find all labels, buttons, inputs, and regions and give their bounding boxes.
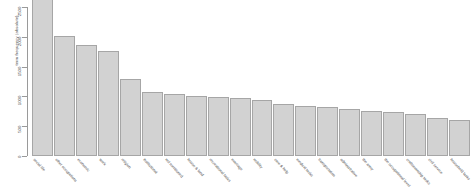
y-tick-label: 1000 [17,96,22,114]
x-tick-label: medical tasks [296,157,315,178]
x-tick-label: household tasks [449,157,471,181]
x-label-slot: economic [76,156,97,196]
y-tick-label: 1500 [17,66,22,84]
x-tick-label: civil service [427,157,444,175]
x-axis-labels: social lifeother occupationseconomicwork… [28,156,470,196]
x-label-slot: craftsmanship tasks [405,156,426,196]
x-label-slot: the occupational level [383,156,404,196]
bar [317,107,338,156]
x-tick-label: economic [76,157,91,173]
x-label-slot: institutional [142,156,163,196]
x-label-slot: medical tasks [295,156,316,196]
bar [230,98,251,156]
x-label-slot: care & help [273,156,294,196]
y-tick-mark [22,37,27,38]
bar [164,94,185,156]
x-tick-label: house & land [186,157,205,177]
y-tick-label: 500 [17,126,22,144]
plot-area [28,0,470,156]
x-tick-label: the army [362,157,376,171]
x-tick-label: social life [32,157,46,172]
bar [405,114,426,156]
x-tick-label: institutional [142,157,159,175]
bar [32,0,53,156]
bar [273,104,294,156]
x-tick-label: transportation [318,157,337,178]
x-label-slot: administrative [339,156,360,196]
bar [186,96,207,156]
x-label-slot: not mentioned [164,156,185,196]
x-tick-label: administrative [340,157,360,178]
x-label-slot: household tasks [449,156,470,196]
x-label-slot: other occupations [54,156,75,196]
bar-series [28,0,470,156]
y-tick-mark [22,156,27,157]
bar [208,97,229,156]
x-label-slot: nobility [252,156,273,196]
x-label-slot: the army [361,156,382,196]
bar [427,118,448,156]
x-label-slot: marriage [230,156,251,196]
x-tick-label: religion [120,157,132,170]
x-label-slot: social life [32,156,53,196]
y-tick-mark [22,7,27,8]
x-label-slot: recreational tasks [208,156,229,196]
bar [54,36,75,156]
x-tick-label: care & help [274,157,291,175]
y-tick-label: 0 [17,156,22,174]
x-tick-label: not mentioned [164,157,184,178]
bar [252,100,273,156]
y-tick-mark [22,67,27,68]
bar [76,45,97,156]
x-tick-label: work [98,157,107,166]
x-label-slot: transportation [317,156,338,196]
bar [361,111,382,156]
bar [98,51,119,156]
bar [339,109,360,156]
x-tick-label: nobility [252,157,264,169]
bar [120,79,141,156]
bar [142,92,163,156]
x-label-slot: house & land [186,156,207,196]
bar [383,112,404,156]
y-tick-mark [22,126,27,127]
bar [449,120,470,156]
x-tick-label: other occupations [54,157,78,183]
x-label-slot: religion [120,156,141,196]
x-label-slot: civil service [427,156,448,196]
bar [295,106,316,156]
y-tick-label: 2500 [17,7,22,25]
x-tick-label: marriage [230,157,244,172]
y-tick-label: 2000 [17,36,22,54]
x-tick-label: recreational tasks [208,157,232,183]
y-tick-mark [22,96,27,97]
x-label-slot: work [98,156,119,196]
